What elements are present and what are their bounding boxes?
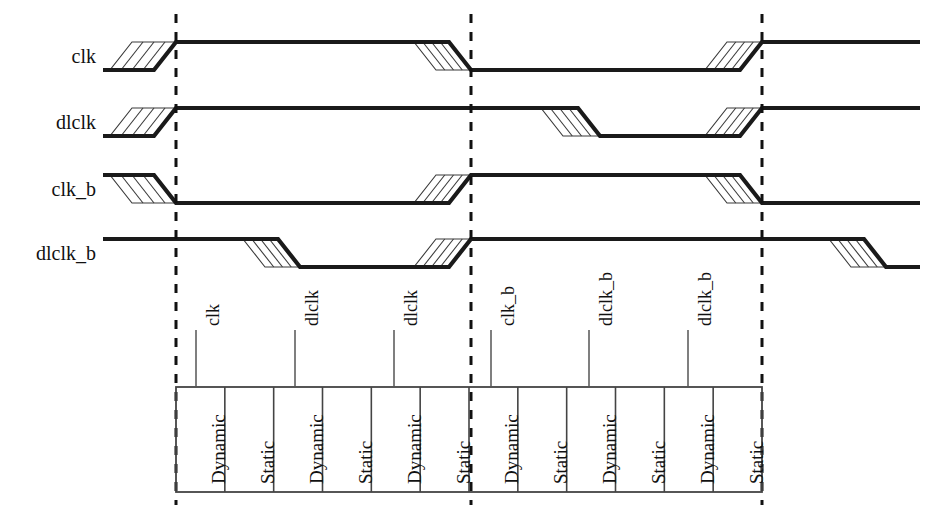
leader-label-clk_b: clk_b xyxy=(498,286,519,326)
phase-cell-static: Static xyxy=(257,441,279,484)
waveform-dlclk_b xyxy=(103,239,920,267)
phase-cell-dynamic: Dynamic xyxy=(697,414,719,484)
waveform-clk xyxy=(103,42,920,70)
timing-diagram-figure: clkdlclkclk_bdlclk_bDynamicStaticDynamic… xyxy=(0,0,928,529)
waveform-dlclk xyxy=(103,108,920,136)
leader-label-dlclk_b: dlclk_b xyxy=(596,272,617,326)
waveform-trace xyxy=(103,175,920,203)
phase-cell-dynamic: Dynamic xyxy=(501,414,523,484)
phase-cell-static: Static xyxy=(648,441,670,484)
waveform-trace xyxy=(103,108,920,136)
leader-label-clk: clk xyxy=(203,304,224,326)
phase-cell-static: Static xyxy=(746,441,768,484)
phase-cell-static: Static xyxy=(453,441,475,484)
phase-cell-dynamic: Dynamic xyxy=(208,414,230,484)
phase-cell-dynamic: Dynamic xyxy=(404,414,426,484)
phase-cell-static: Static xyxy=(355,441,377,484)
leader-label-dlclk: dlclk xyxy=(401,290,422,326)
signal-label-clk: clk xyxy=(72,45,96,68)
waveform-clk_b xyxy=(103,175,920,203)
phase-cell-dynamic: Dynamic xyxy=(306,414,328,484)
phase-cell-dynamic: Dynamic xyxy=(599,414,621,484)
signal-label-clk_b: clk_b xyxy=(52,178,96,201)
leader-label-dlclk: dlclk xyxy=(302,290,323,326)
signal-label-dlclk_b: dlclk_b xyxy=(36,242,96,265)
waveform-trace xyxy=(103,239,920,267)
phase-cell-static: Static xyxy=(550,441,572,484)
signal-label-dlclk: dlclk xyxy=(56,111,96,134)
waveform-trace xyxy=(103,42,920,70)
leader-label-dlclk_b: dlclk_b xyxy=(695,272,716,326)
